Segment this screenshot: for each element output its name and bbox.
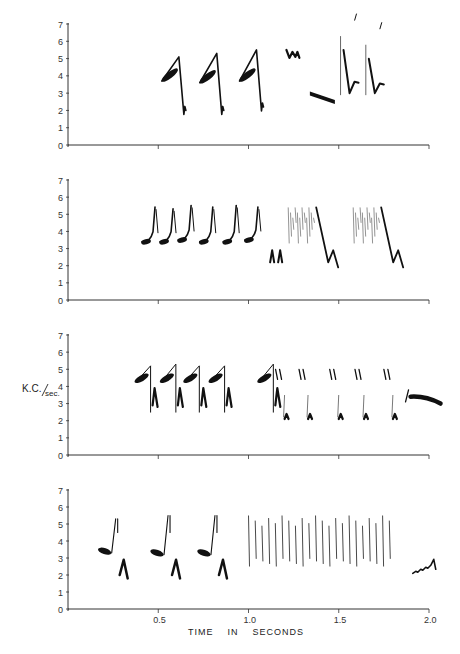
call-trace — [245, 207, 258, 240]
trill-line — [309, 523, 310, 559]
call-trace — [259, 364, 273, 412]
y-tick-label: 2 — [58, 571, 63, 581]
x-axis-title: TIME IN SECONDS — [188, 627, 304, 637]
call-trace — [200, 53, 224, 114]
trill-line — [349, 516, 350, 564]
y-tick-label: 3 — [58, 399, 63, 409]
call-trace — [278, 250, 282, 262]
call-trace — [381, 207, 403, 267]
note-blob — [97, 546, 112, 556]
trill-line — [262, 526, 263, 562]
y-tick-label: 6 — [58, 193, 63, 203]
comb-line — [302, 207, 303, 229]
panel-4: 012345670.51.01.52.0 — [58, 486, 437, 626]
call-trace — [406, 390, 409, 402]
note-blob — [133, 372, 150, 385]
y-tick-label: 0 — [58, 605, 63, 615]
panel-1: 01234567 — [58, 14, 429, 151]
note-blob — [256, 372, 273, 385]
call-trace — [223, 205, 236, 241]
call-trace — [162, 364, 176, 412]
comb-line — [358, 218, 359, 230]
comb-line — [374, 207, 375, 236]
comb-line — [360, 207, 361, 222]
trill-line — [289, 521, 290, 562]
call-trace — [162, 57, 186, 115]
call-trace — [178, 388, 183, 407]
y-tick-label: 1 — [58, 433, 63, 443]
trill-line — [295, 526, 296, 564]
y-tick-label: 6 — [58, 348, 63, 358]
call-trace — [316, 207, 338, 267]
call-trace — [330, 369, 336, 379]
y-tick-label: 0 — [58, 451, 63, 461]
call-spike — [237, 207, 239, 233]
y-tick-label: 2 — [58, 261, 63, 271]
call-trace — [185, 366, 199, 412]
comb-line — [307, 218, 308, 244]
call-trace — [286, 50, 299, 58]
trill-line — [383, 516, 384, 567]
x-tick-label: 1.0 — [244, 615, 257, 625]
call-trace — [142, 207, 155, 242]
x-tick-label: 1.5 — [334, 615, 347, 625]
y-tick-label: 6 — [58, 37, 63, 47]
panel-3: 01234567 — [58, 331, 441, 461]
call-trace — [201, 388, 206, 407]
note-blob — [158, 372, 175, 385]
call-trace — [270, 250, 274, 262]
y-tick-label: 6 — [58, 503, 63, 513]
call-trace — [200, 207, 213, 242]
y-axis-label-sub: sec. — [45, 389, 60, 398]
y-tick-label: 5 — [58, 520, 63, 530]
y-tick-label: 1 — [58, 588, 63, 598]
trill-line — [322, 521, 323, 564]
trill-line — [329, 526, 330, 567]
call-trace — [411, 397, 441, 404]
y-tick-label: 3 — [58, 554, 63, 564]
trill-line — [249, 516, 250, 567]
y-tick-label: 3 — [58, 89, 63, 99]
note-blob — [196, 548, 211, 558]
call-spike — [307, 395, 308, 417]
trill-line — [269, 518, 270, 564]
trill-line — [302, 518, 303, 566]
y-tick-label: 0 — [58, 141, 63, 151]
call-trace — [285, 414, 289, 419]
call-trace — [211, 366, 225, 412]
call-trace — [211, 516, 217, 555]
call-trace — [393, 414, 397, 419]
call-trace — [137, 366, 151, 412]
call-trace — [227, 388, 232, 407]
call-trace — [364, 414, 368, 419]
call-spike — [174, 211, 176, 233]
y-tick-label: 7 — [58, 176, 63, 186]
y-tick-label: 4 — [58, 71, 63, 81]
x-tick-label: 2.0 — [424, 615, 437, 625]
call-spike — [380, 22, 382, 29]
trill-line — [389, 521, 390, 559]
comb-line — [295, 207, 296, 222]
note-blob — [238, 66, 258, 83]
note-blob — [182, 372, 199, 385]
trill-line — [369, 518, 370, 561]
note-band — [310, 91, 335, 104]
comb-line — [378, 218, 379, 223]
call-trace — [299, 369, 305, 379]
comb-line — [314, 218, 315, 223]
call-trace — [178, 205, 191, 240]
y-tick-label: 5 — [58, 54, 63, 64]
trill-line — [282, 516, 283, 559]
call-trace — [413, 559, 436, 573]
comb-line — [304, 213, 305, 223]
y-tick-label: 2 — [58, 416, 63, 426]
comb-line — [309, 207, 310, 236]
call-trace — [339, 414, 343, 419]
call-spike — [214, 209, 216, 233]
trill-line — [376, 523, 377, 564]
comb-line — [297, 213, 298, 244]
y-tick-label: 5 — [58, 210, 63, 220]
spectrogram-figure: 012345670123456701234567012345670.51.01.… — [0, 0, 460, 654]
y-tick-label: 3 — [58, 244, 63, 254]
y-axis-label-main: K.C. — [22, 383, 41, 394]
